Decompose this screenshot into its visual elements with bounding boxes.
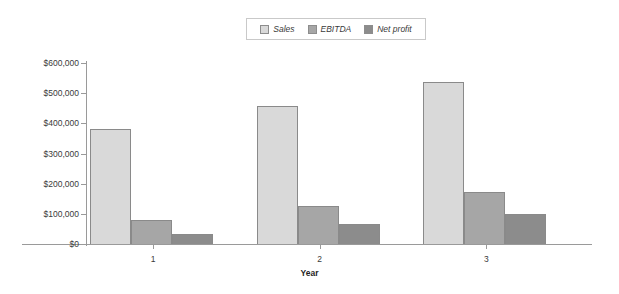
- x-axis-tick-label: 1: [133, 254, 173, 264]
- x-axis-title: Year: [0, 268, 619, 278]
- x-axis-tick-label: 2: [300, 254, 340, 264]
- bar-chart: Sales EBITDA Net profit $0$100,000$200,0…: [0, 0, 619, 294]
- x-axis-tick-mark: [486, 244, 487, 249]
- y-axis-tick-mark: [81, 244, 86, 245]
- legend-label-sales: Sales: [273, 24, 294, 34]
- bar-net-profit[interactable]: [505, 214, 546, 244]
- x-axis-tick-mark: [153, 244, 154, 249]
- bar-sales[interactable]: [423, 82, 464, 244]
- legend-item-net-profit: Net profit: [364, 24, 412, 34]
- y-axis-tick-label: $300,000: [44, 149, 86, 159]
- chart-legend: Sales EBITDA Net profit: [246, 18, 426, 40]
- legend-item-ebitda: EBITDA: [308, 24, 352, 34]
- bar-net-profit[interactable]: [339, 224, 380, 244]
- legend-swatch-ebitda: [308, 25, 317, 34]
- legend-label-ebitda: EBITDA: [321, 24, 352, 34]
- bar-sales[interactable]: [257, 106, 298, 244]
- x-axis-tick-mark: [320, 244, 321, 249]
- y-axis-tick-label: $100,000: [44, 209, 86, 219]
- bar-net-profit[interactable]: [172, 234, 213, 244]
- y-axis-tick-label: $400,000: [44, 118, 86, 128]
- x-axis-line: [22, 244, 592, 245]
- legend-label-net-profit: Net profit: [377, 24, 412, 34]
- legend-item-sales: Sales: [260, 24, 294, 34]
- plot-area: $0$100,000$200,000$300,000$400,000$500,0…: [86, 63, 586, 244]
- legend-swatch-sales: [260, 25, 269, 34]
- legend-swatch-net-profit: [364, 25, 373, 34]
- y-axis-tick-label: $200,000: [44, 179, 86, 189]
- bar-sales[interactable]: [90, 129, 131, 244]
- bar-group-bars: [90, 63, 213, 244]
- y-axis-tick-label: $500,000: [44, 88, 86, 98]
- bar-ebitda[interactable]: [464, 192, 505, 244]
- bar-group-bars: [423, 63, 546, 244]
- bar-group-bars: [257, 63, 380, 244]
- bar-ebitda[interactable]: [131, 220, 172, 244]
- bar-group: 2: [253, 63, 420, 244]
- bar-ebitda[interactable]: [298, 206, 339, 244]
- y-axis-tick-label: $600,000: [44, 58, 86, 68]
- bar-group: 3: [419, 63, 586, 244]
- bar-groups: 123: [86, 63, 586, 244]
- bar-group: 1: [86, 63, 253, 244]
- x-axis-tick-label: 3: [466, 254, 506, 264]
